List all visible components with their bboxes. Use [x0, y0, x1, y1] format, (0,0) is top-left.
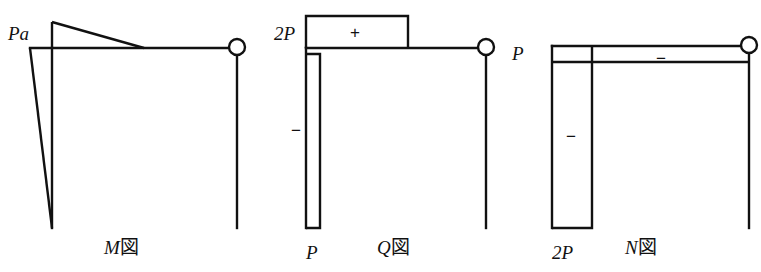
axial-diagram-caption: N図: [625, 238, 657, 257]
axial-column-negative-sign: −: [566, 128, 576, 145]
shear-caption-variable: Q: [377, 237, 391, 258]
axial-bottom-label: 2P: [552, 243, 573, 262]
axial-diagram-graphic: [504, 0, 761, 272]
moment-diagram-graphic: [0, 0, 258, 272]
moment-caption-variable: M: [104, 237, 120, 258]
shear-positive-sign: +: [350, 24, 360, 41]
shear-column-negative-strip: [306, 54, 320, 228]
axial-top-label: P: [512, 44, 524, 63]
moment-column-slope-line: [30, 48, 52, 228]
moment-diagram-caption: M図: [104, 238, 139, 257]
shear-diagram-caption: Q図: [377, 238, 410, 257]
diagram-sheet: Pa M図 2P + − P Q図: [0, 0, 761, 272]
shear-diagram-panel: 2P + − P Q図: [258, 0, 504, 272]
shear-caption-suffix: 図: [391, 236, 410, 258]
pin-support-circle-icon: [478, 39, 494, 55]
moment-beam-slope-line: [52, 22, 144, 48]
axial-caption-suffix: 図: [638, 236, 657, 258]
shear-bottom-label: P: [306, 243, 318, 262]
shear-negative-sign: −: [291, 122, 301, 139]
moment-caption-suffix: 図: [120, 236, 139, 258]
axial-caption-variable: N: [625, 237, 638, 258]
moment-diagram-panel: Pa M図: [0, 0, 258, 272]
shear-top-label: 2P: [274, 24, 295, 43]
pin-support-circle-icon: [741, 37, 757, 53]
pin-support-circle-icon: [229, 39, 245, 55]
axial-diagram-panel: P − − 2P N図: [504, 0, 761, 272]
moment-peak-label: Pa: [8, 24, 29, 43]
axial-beam-negative-sign: −: [656, 50, 666, 67]
